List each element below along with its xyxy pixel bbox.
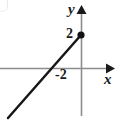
y-intercept-point <box>77 31 84 38</box>
y-axis-arrowhead <box>77 5 87 14</box>
y-intercept-label: 2 <box>66 27 73 41</box>
plotted-line <box>8 35 81 118</box>
x-intercept-label: -2 <box>55 68 67 82</box>
x-axis-label: x <box>104 72 112 87</box>
y-axis-label: y <box>68 2 75 17</box>
graph-figure: y x 2 -2 <box>0 0 119 121</box>
coordinate-plane <box>0 0 119 121</box>
